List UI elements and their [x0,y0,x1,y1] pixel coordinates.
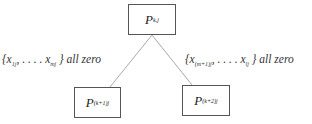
label-text: all zero [67,53,101,65]
label-sub2: lj [246,61,249,67]
label-sub2: mj [50,61,56,67]
label-dots: , . . . . x [16,53,50,65]
label-close: } [252,53,257,65]
edge-right-label: {x(m+1)j, . . . . xlj } all zero [185,53,294,67]
right-child-node: P(k+2)j [182,85,230,116]
root-subscript: k,j [153,17,159,23]
left-child-subscript: (k+1)j [94,100,109,106]
root-symbol: P [145,12,153,28]
label-text: all zero [259,53,293,65]
left-child-node: P(k+1)j [74,87,121,118]
edge-left-label: {x1j, . . . . xmj } all zero [2,53,101,67]
label-open: {x [185,53,195,65]
label-open: {x [2,53,12,65]
left-child-symbol: P [86,95,94,111]
root-node: Pk,j [128,4,176,35]
right-child-symbol: P [194,93,202,109]
edge-left [110,35,152,87]
label-close: } [59,53,64,65]
right-child-subscript: (k+2)j [202,98,217,104]
label-sub1: (m+1)j [195,61,212,67]
label-dots: , . . . . x [212,53,246,65]
